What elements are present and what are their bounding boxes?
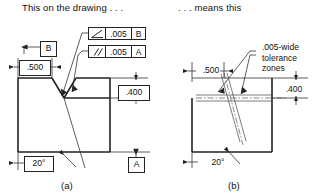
parallelism-icon: [89, 46, 106, 57]
angularity-feature-control-frame[interactable]: .005 B: [88, 27, 146, 40]
figure-caption-b: (b): [228, 180, 240, 191]
datum-a-leader-a: [110, 149, 150, 157]
dimension-400-label-a: .400: [118, 85, 150, 101]
parallelism-feature-control-frame[interactable]: .005 A: [88, 45, 146, 58]
tolerance-zone-note: .005-wide tolerance zones: [262, 42, 299, 74]
dimension-500-label-b: .500: [196, 64, 226, 78]
angle-label-a: 20°: [24, 156, 54, 172]
dimension-400-label-b: .400: [279, 83, 309, 97]
part-outline-b: [192, 78, 272, 152]
angularity-tolerance-value: .005: [106, 28, 132, 39]
angularity-icon: [89, 28, 106, 39]
figure-canvas: This on the drawing . . . . . . means th…: [0, 0, 331, 196]
parallelism-tolerance-value: .005: [106, 46, 132, 57]
angle-label-b: 20°: [205, 156, 231, 170]
datum-a-box: A: [128, 157, 145, 173]
angularity-datum-reference: B: [132, 28, 145, 39]
parallelism-datum-reference: A: [132, 46, 145, 57]
datum-b-box: B: [40, 41, 57, 57]
angled-surface-line-a: [64, 98, 85, 168]
dimension-500-label-a: .500: [19, 60, 51, 76]
fcf-leaders-a: [61, 33, 88, 96]
datum-b-leader-a: [21, 44, 40, 54]
figure-caption-a: (a): [61, 180, 73, 191]
